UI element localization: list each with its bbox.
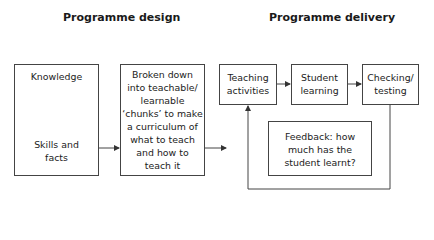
checking-line: testing <box>363 84 418 97</box>
chunks-line: Broken down <box>121 68 204 81</box>
checking-testing-box: Checking/ testing <box>362 64 419 105</box>
chunks-line: teach it <box>121 159 204 172</box>
feedback-line: student learnt? <box>269 156 371 169</box>
checking-line: Checking/ <box>363 71 418 84</box>
skills-label-line2: facts <box>15 151 98 164</box>
student-line: learning <box>292 84 347 97</box>
student-learning-box: Student learning <box>291 64 348 105</box>
chunks-line: ‘chunks’ to make <box>121 107 204 120</box>
knowledge-box: Knowledge Skills and facts <box>14 64 99 176</box>
teaching-line: activities <box>220 84 276 97</box>
feedback-line: much has the <box>269 143 371 156</box>
skills-label-line1: Skills and <box>15 138 98 151</box>
teaching-activities-box: Teaching activities <box>219 64 277 105</box>
student-line: Student <box>292 71 347 84</box>
chunks-line: into teachable/ <box>121 81 204 94</box>
feedback-box: Feedback: how much has the student learn… <box>268 121 372 176</box>
chunks-line: learnable <box>121 94 204 107</box>
chunks-line: a curriculum of <box>121 120 204 133</box>
chunks-line: and how to <box>121 146 204 159</box>
chunks-line: what to teach <box>121 133 204 146</box>
chunks-box: Broken down into teachable/ learnable ‘c… <box>120 64 205 176</box>
teaching-line: Teaching <box>220 71 276 84</box>
knowledge-label: Knowledge <box>15 70 98 83</box>
feedback-line: Feedback: how <box>269 130 371 143</box>
